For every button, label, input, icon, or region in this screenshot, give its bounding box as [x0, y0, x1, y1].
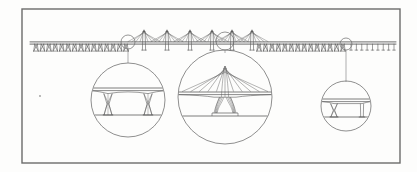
drawing-canvas: [0, 0, 417, 172]
stay-cable: [200, 32, 212, 42]
stay-cable: [212, 32, 224, 42]
deck-haunch: [108, 92, 148, 94]
callout-marker-ring: [216, 32, 234, 50]
deck-girder: [30, 42, 396, 44]
stay-cable: [190, 32, 202, 42]
pylon-splay-leg: [228, 97, 234, 113]
deck-haunch: [148, 91, 165, 94]
cable-stayed-main-section: [128, 30, 268, 50]
left-approach-viaduct: [34, 44, 129, 51]
stay-cable: [178, 32, 190, 42]
stay-cable: [155, 32, 167, 42]
detail-bubble-outline: [91, 63, 165, 137]
detail-stay-cable: [199, 69, 225, 91]
detail-stay-cable: [225, 72, 268, 91]
detail-content: [91, 88, 165, 115]
stay-cable: [252, 32, 264, 42]
right-approach-viaduct: [257, 44, 345, 51]
stay-cable: [132, 32, 144, 42]
detail-content: [321, 99, 371, 117]
stay-cable: [240, 32, 252, 42]
right-end-trestle: [350, 44, 396, 50]
detail-callout-right: [321, 38, 371, 131]
stray-ink-mark: [39, 95, 41, 97]
pylon-splay-leg: [217, 97, 224, 113]
pylon-splay-leg: [226, 97, 233, 113]
pylon-splay-leg: [216, 97, 222, 113]
bridge-elevation-figure: [0, 0, 417, 172]
detail-stay-cable: [225, 69, 251, 91]
stay-cable: [167, 32, 179, 42]
detail-stay-cable: [182, 72, 225, 91]
deck-haunch: [91, 91, 108, 94]
stay-cable: [144, 32, 156, 42]
detail-content: [178, 66, 272, 116]
